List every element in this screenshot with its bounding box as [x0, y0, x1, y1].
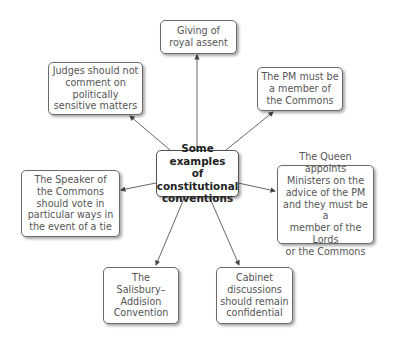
node-judges: Judges should not comment on politically… — [48, 62, 143, 115]
node-queen-ministers: The Queen appoints Ministers on the advi… — [277, 165, 374, 244]
node-speaker: The Speaker of the Commons should vote i… — [21, 170, 120, 237]
arrow-to-speaker — [121, 183, 156, 190]
center-node: Some examples of constitutional conventi… — [156, 150, 239, 197]
arrow-to-queen — [238, 183, 275, 191]
node-pm-commons: The PM must be a member of the Commons — [257, 67, 343, 111]
arrow-to-salisbury — [156, 196, 185, 265]
node-royal-assent: Giving of royal assent — [160, 20, 237, 54]
arrow-to-cabinet — [209, 196, 239, 265]
node-cabinet: Cabinet discussions should remain confid… — [216, 267, 293, 324]
node-salisbury: The Salisbury– Addision Convention — [103, 267, 179, 324]
